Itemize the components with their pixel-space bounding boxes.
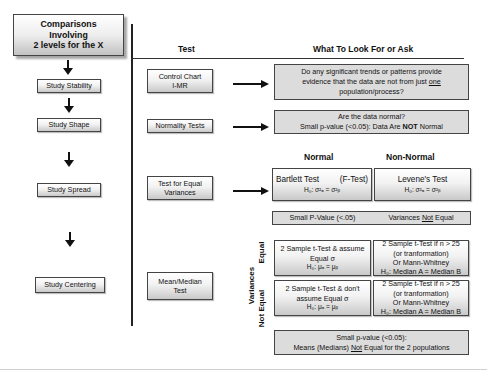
step-label: Study Shape xyxy=(48,120,89,129)
cell-hypothesis: H₀: Median A = Median B xyxy=(381,307,461,316)
bartlett-name: Bartlett Test xyxy=(276,175,319,186)
equal-variance-nonnormal-box: 2 Sample t-Test if n > 25 (or tranformat… xyxy=(373,240,469,276)
levene-test-box: Levene's Test H₀: σ²ₐ = σ²ᵦ xyxy=(374,168,471,201)
cell-text: (or tranformation) xyxy=(393,249,449,258)
f-test-name: (F-Test) xyxy=(340,175,368,186)
down-arrow-icon xyxy=(64,152,74,167)
unequal-variance-nonnormal-box: 2 Sample t-Test if n > 25 (or tranformat… xyxy=(373,280,469,316)
right-arrow-icon xyxy=(233,187,269,195)
normality-text: Small p-value (<0.05): Data Are NOT Norm… xyxy=(300,122,443,132)
cell-text: 2 Sample t-Test if n > 25 xyxy=(382,279,460,288)
normal-header: Normal xyxy=(304,152,333,162)
centering-text-part: Equal for the 2 populations xyxy=(362,343,450,352)
cell-text: (or tranformation) xyxy=(393,289,449,298)
cell-text: assume Equal σ xyxy=(297,294,349,303)
test-label: Normality Tests xyxy=(156,121,205,130)
title-line-1: Comparisons xyxy=(40,19,96,30)
bottom-rule xyxy=(0,369,487,370)
centering-result-text: Means (Medians) Not Equal for the 2 popu… xyxy=(293,343,449,353)
header-divider xyxy=(131,58,464,59)
cell-text: 2 Sample t-Test & don't xyxy=(285,284,359,293)
centering-emphasis: Not xyxy=(351,343,362,352)
cell-text: Or Mann-Whitney xyxy=(393,258,449,267)
step-label: Study Stability xyxy=(46,81,92,90)
vertical-divider xyxy=(131,24,133,326)
step-label: Study Centering xyxy=(44,280,96,289)
unequal-variance-normal-box: 2 Sample t-Test & don't assume Equal σ H… xyxy=(274,280,371,316)
spread-text-part: Equal xyxy=(433,213,453,222)
equal-variance-normal-box: 2 Sample t-Test & assume Equal σ H₀: μₐ … xyxy=(274,240,371,276)
test-label: Mean/Median xyxy=(158,277,202,286)
step-study-centering: Study Centering xyxy=(35,277,105,293)
test-control-chart: Control Chart I-MR xyxy=(147,69,213,93)
spread-text-part: Variances xyxy=(388,213,421,222)
spread-result-box: Small P-Value (<.05) Variances Not Equal xyxy=(272,211,471,225)
normality-text-part: Normal xyxy=(418,122,443,131)
step-label: Study Spread xyxy=(47,185,91,194)
row-label-variances: Variances xyxy=(247,261,256,311)
bartlett-hypothesis: H₀: σ²ₐ = σ²ᵦ xyxy=(304,186,340,195)
title-line-2: Involving xyxy=(49,30,88,41)
stability-text: evidence that the data are not from just… xyxy=(302,77,441,87)
cell-text: Equal σ xyxy=(310,254,335,263)
cell-hypothesis: H₀: Median A = Median B xyxy=(381,267,461,276)
normality-text: Are the data normal? xyxy=(338,112,405,122)
right-arrow-icon xyxy=(233,123,269,131)
centering-result-text: Small p-value (<0.05): xyxy=(336,333,407,343)
column-header-test: Test xyxy=(178,44,195,54)
test-label: I-MR xyxy=(172,81,188,90)
row-label-not-equal: Not Equal xyxy=(257,284,266,334)
levene-hypothesis: H₀: σ²ₐ = σ²ᵦ xyxy=(404,186,440,195)
non-normal-header: Non-Normal xyxy=(386,152,435,162)
cell-hypothesis: H₀: μₐ = μᵦ xyxy=(307,263,338,272)
stability-text: population/process? xyxy=(339,87,403,97)
step-study-shape: Study Shape xyxy=(37,118,101,132)
down-arrow-icon xyxy=(63,60,73,75)
cell-text: Or Mann-Whitney xyxy=(393,298,449,307)
normality-emphasis: NOT xyxy=(403,122,418,131)
test-label: Control Chart xyxy=(159,72,202,81)
diagram-title-box: Comparisons Involving 2 levels for the X xyxy=(13,14,124,56)
cell-text: 2 Sample t-Test & assume xyxy=(281,244,365,253)
right-arrow-icon xyxy=(233,80,269,88)
step-study-spread: Study Spread xyxy=(37,183,101,197)
spread-result-right: Variances Not Equal xyxy=(388,213,453,223)
bartlett-title: Bartlett Test(F-Test) xyxy=(273,175,371,186)
column-header-what-to-look-for: What To Look For or Ask xyxy=(313,44,413,54)
levene-name: Levene's Test xyxy=(398,175,448,186)
spread-result-left: Small P-Value (<.05) xyxy=(290,213,356,223)
test-label: Variances xyxy=(164,188,195,197)
test-normality: Normality Tests xyxy=(147,119,213,133)
spread-emphasis: Not xyxy=(422,213,433,222)
test-mean-median: Mean/Median Test xyxy=(147,272,213,300)
cell-hypothesis: H₀: μₐ = μᵦ xyxy=(307,303,338,312)
test-label: Test for Equal xyxy=(158,179,202,188)
bartlett-test-box: Bartlett Test(F-Test) H₀: σ²ₐ = σ²ᵦ xyxy=(272,168,372,201)
row-label-equal: Equal xyxy=(257,238,266,268)
centering-result-box: Small p-value (<0.05): Means (Medians) N… xyxy=(274,330,469,355)
centering-text-part: Means (Medians) xyxy=(293,343,351,352)
stability-question-box: Do any significant trends or patterns pr… xyxy=(274,64,469,100)
test-equal-variances: Test for Equal Variances xyxy=(147,176,213,200)
stability-text: Do any significant trends or patterns pr… xyxy=(301,67,442,77)
stability-emphasis: one xyxy=(429,77,441,86)
normality-question-box: Are the data normal? Small p-value (<0.0… xyxy=(274,110,469,134)
stability-text-part: evidence that the data are not from just xyxy=(302,77,429,86)
cell-text: 2 Sample t-Test if n > 25 xyxy=(382,239,460,248)
normality-text-part: Small p-value (<0.05): Data Are xyxy=(300,122,402,131)
down-arrow-icon xyxy=(65,232,75,247)
test-label: Test xyxy=(173,286,186,295)
title-line-3: 2 levels for the X xyxy=(34,40,104,51)
down-arrow-icon xyxy=(64,98,74,113)
step-study-stability: Study Stability xyxy=(37,79,101,93)
